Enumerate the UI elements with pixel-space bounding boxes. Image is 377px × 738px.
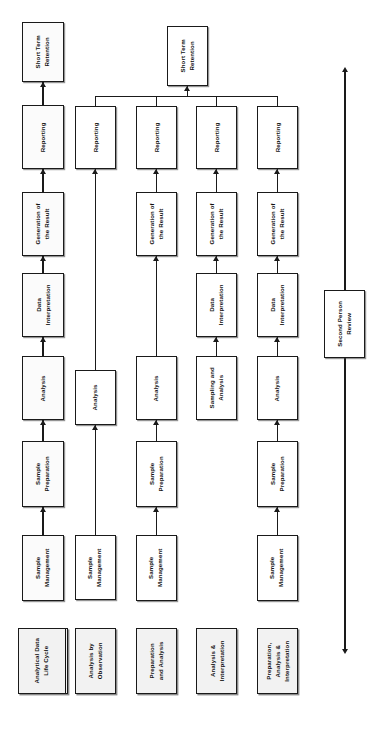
- node-label: Analysis: [39, 375, 48, 401]
- legend-analysis-and-interpretation[interactable]: Analysis & Interpretation: [196, 628, 237, 694]
- node-c5-data-interpretation[interactable]: Data Interpretation: [257, 273, 298, 337]
- node-label: Second Person Review: [336, 301, 354, 347]
- node-label: Analysis: [152, 375, 161, 401]
- arrowhead-c3-analysis: [153, 420, 159, 425]
- node-label: Reporting: [212, 123, 221, 153]
- connector-bus-drop-c3: [156, 96, 157, 106]
- legend-cell: Analysis by Observation: [76, 629, 115, 693]
- arrowhead-c5-result: [274, 256, 280, 261]
- node-label: Generation of the Result: [269, 203, 287, 244]
- node-label: Sampling and Analysis: [208, 367, 226, 408]
- second-person-review-axis: [344, 72, 345, 652]
- arrowhead-second-person-review-bottom: [342, 649, 348, 654]
- node-c3-sample-management[interactable]: Sample Management: [136, 535, 177, 601]
- connector-bus-drop-c2: [95, 96, 96, 106]
- node-c4-sampling-and-analysis[interactable]: Sampling and Analysis: [196, 356, 237, 420]
- node-c5-sample-preparation[interactable]: Sample Preparation: [257, 441, 298, 507]
- node-c5-analysis[interactable]: Analysis: [257, 356, 298, 420]
- node-label: Sample Management: [34, 549, 52, 587]
- arrowhead-c3-prep: [153, 507, 159, 512]
- legend-label: Analysis & Interpretation: [209, 641, 227, 682]
- node-c2-analysis[interactable]: Analysis: [75, 370, 116, 425]
- node-c5-reporting[interactable]: Reporting: [257, 106, 298, 169]
- legend-label: Analysis by Observation: [87, 643, 105, 680]
- node-c1-analysis[interactable]: Analysis: [22, 356, 64, 420]
- arrowhead-c4-interp: [213, 337, 219, 342]
- legend-preparation-and-analysis[interactable]: Preparation and Analysis: [136, 628, 177, 694]
- arrowhead-c1-prep: [40, 507, 46, 512]
- arrowhead-c4-result: [213, 256, 219, 261]
- arrowhead-second-person-review-top: [342, 67, 348, 72]
- node-label: Reporting: [273, 123, 282, 153]
- node-label: Sample Preparation: [148, 456, 166, 491]
- arrowhead-c1-reporting: [40, 169, 46, 174]
- node-c2-sample-management[interactable]: Sample Management: [75, 535, 116, 600]
- node-label: Sample Preparation: [34, 456, 52, 491]
- node-c1-reporting[interactable]: Reporting: [22, 105, 64, 169]
- arrowhead-c3-reporting: [153, 169, 159, 174]
- arrowhead-c1-analysis: [40, 420, 46, 425]
- legend-cell: Analysis & Interpretation: [197, 629, 238, 693]
- node-c1-data-interpretation[interactable]: Data Interpretation: [22, 273, 64, 337]
- node-c4-generation-of-the-result[interactable]: Generation of the Result: [196, 192, 237, 256]
- arrowhead-c3-result: [153, 256, 159, 261]
- node-label: Sample Management: [148, 549, 166, 587]
- node-second-person-review[interactable]: Second Person Review: [324, 290, 365, 358]
- legend-label: Analytical Data Life Cycle: [33, 638, 51, 684]
- arrowhead-c4-reporting: [213, 169, 219, 174]
- legend-analytical-data-life-cycle[interactable]: Analytical Data Life Cycle Analysis Type: [18, 628, 68, 694]
- connector-bus-drop-c4: [216, 96, 217, 106]
- node-shared-short-term-retention[interactable]: Short Term Retention: [167, 26, 208, 86]
- node-label: Short Term Retention: [34, 35, 52, 68]
- node-label: Reporting: [152, 123, 161, 153]
- node-c4-data-interpretation[interactable]: Data Interpretation: [196, 273, 237, 337]
- connector-c3-analysis-to-result: [156, 256, 157, 356]
- node-c2-reporting[interactable]: Reporting: [75, 106, 116, 169]
- node-label: Analysis: [91, 384, 100, 410]
- legend-cell: Preparation and Analysis: [137, 629, 176, 693]
- legend-analysis-by-observation[interactable]: Analysis by Observation: [75, 628, 116, 694]
- node-label: Generation of the Result: [208, 203, 226, 244]
- arrowhead-c5-analysis: [274, 420, 280, 425]
- connector-reporting-bus: [95, 96, 278, 97]
- node-label: Sample Management: [87, 548, 105, 586]
- node-label: Sample Management: [269, 549, 287, 587]
- node-c1-sample-preparation[interactable]: Sample Preparation: [22, 441, 64, 507]
- node-label: Sample Preparation: [269, 456, 287, 491]
- arrowhead-c2-analysis: [92, 425, 98, 430]
- arrowhead-c1-result: [40, 256, 46, 261]
- arrowhead-c1-retention: [40, 82, 46, 87]
- diagram-canvas: Short Term Retention Reporting Generatio…: [0, 0, 377, 738]
- arrowhead-c1-interp: [40, 337, 46, 342]
- node-c3-sample-preparation[interactable]: Sample Preparation: [136, 441, 177, 507]
- node-c5-sample-management[interactable]: Sample Management: [257, 535, 298, 601]
- legend-label: Preparation, Analysis & Interpretation: [265, 641, 291, 682]
- node-label: Analysis: [273, 375, 282, 401]
- node-label: Reporting: [91, 123, 100, 153]
- node-c3-reporting[interactable]: Reporting: [136, 106, 177, 169]
- node-label: Generation of the Result: [148, 203, 166, 244]
- legend-cell-left: Analytical Data Life Cycle: [19, 629, 65, 693]
- node-label: Data Interpretation: [269, 285, 287, 326]
- connector-c2-analysis-to-reporting: [95, 169, 96, 370]
- node-c5-generation-of-the-result[interactable]: Generation of the Result: [257, 192, 298, 256]
- node-label: Data Interpretation: [208, 285, 226, 326]
- node-c1-short-term-retention[interactable]: Short Term Retention: [22, 22, 64, 82]
- node-c1-sample-management[interactable]: Sample Management: [22, 535, 64, 601]
- legend-cell: Preparation, Analysis & Interpretation: [258, 629, 299, 693]
- legend-label: Preparation and Analysis: [148, 642, 166, 681]
- connector-c2-mgmt-to-analysis: [95, 425, 96, 535]
- node-label: Data Interpretation: [34, 285, 52, 326]
- node-label: Reporting: [39, 122, 48, 152]
- node-label: Generation of the Result: [34, 203, 52, 244]
- node-c1-generation-of-the-result[interactable]: Generation of the Result: [22, 192, 64, 256]
- node-label: Short Term Retention: [179, 39, 197, 72]
- node-c3-generation-of-the-result[interactable]: Generation of the Result: [136, 192, 177, 256]
- node-c3-analysis[interactable]: Analysis: [136, 356, 177, 420]
- arrowhead-c5-prep: [274, 507, 280, 512]
- arrowhead-c5-interp: [274, 337, 280, 342]
- node-c4-reporting[interactable]: Reporting: [196, 106, 237, 169]
- legend-preparation-analysis-interpretation[interactable]: Preparation, Analysis & Interpretation: [257, 628, 298, 694]
- arrowhead-shared-retention: [184, 86, 190, 91]
- connector-bus-drop-c5: [277, 96, 278, 106]
